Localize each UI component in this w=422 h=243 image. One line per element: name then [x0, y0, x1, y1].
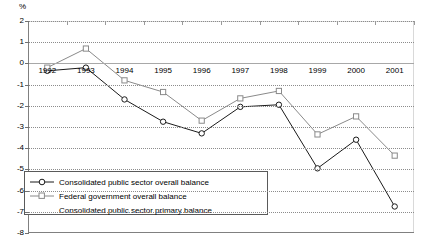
gridline-0 — [28, 63, 414, 64]
x-tick-mark — [67, 21, 68, 25]
y-tick-mark — [25, 63, 29, 64]
gridline-neg5 — [28, 169, 414, 170]
y-tick-label: 1 — [0, 38, 24, 46]
gridline-neg4 — [28, 148, 414, 149]
line-chart: % Consolidated public sector overall bal… — [0, 0, 422, 243]
y-tick-mark — [25, 212, 29, 213]
y-tick-mark — [25, 169, 29, 170]
data-point-marker — [392, 204, 397, 209]
gridline-1 — [28, 42, 414, 43]
x-tick-mark — [260, 21, 261, 25]
data-point-marker — [238, 96, 243, 101]
x-tick-mark — [375, 21, 376, 25]
x-tick-mark — [337, 21, 338, 25]
data-point-marker — [392, 153, 397, 158]
y-tick-label: 0 — [0, 59, 24, 67]
x-tick-mark — [221, 21, 222, 25]
x-tick-label-1995: 1995 — [146, 66, 180, 75]
x-tick-mark — [144, 21, 145, 25]
y-tick-label: -2 — [0, 102, 24, 110]
x-tick-mark — [298, 21, 299, 25]
legend-label: Consolidated public sector primary balan… — [59, 206, 212, 215]
x-tick-mark — [105, 21, 106, 25]
y-tick-label: -3 — [0, 123, 24, 131]
chart-legend: Consolidated public sector overall balan… — [24, 171, 268, 215]
x-tick-label-2000: 2000 — [339, 66, 373, 75]
y-tick-label: -8 — [0, 229, 24, 237]
data-point-marker — [160, 119, 165, 124]
series-line — [47, 49, 394, 156]
y-tick-label: -1 — [0, 81, 24, 89]
y-tick-label: -7 — [0, 208, 24, 216]
gridline-neg2 — [28, 106, 414, 107]
x-tick-label-1998: 1998 — [262, 66, 296, 75]
legend-label: Consolidated public sector overall balan… — [59, 178, 209, 187]
gridline-neg1 — [28, 85, 414, 86]
y-tick-mark — [25, 191, 29, 192]
y-tick-mark — [25, 127, 29, 128]
y-tick-mark — [25, 42, 29, 43]
y-tick-label: -6 — [0, 187, 24, 195]
x-tick-label-1997: 1997 — [223, 66, 257, 75]
data-point-marker — [276, 88, 281, 93]
y-tick-mark — [25, 233, 29, 234]
data-point-marker — [353, 137, 358, 142]
y-tick-mark — [25, 85, 29, 86]
y-tick-label: 2 — [0, 17, 24, 25]
gridline-neg3 — [28, 127, 414, 128]
y-tick-mark — [25, 148, 29, 149]
y-tick-label: -5 — [0, 165, 24, 173]
x-tick-label-2001: 2001 — [378, 66, 412, 75]
data-point-marker — [199, 118, 204, 123]
data-point-marker — [122, 78, 127, 83]
y-tick-mark — [25, 21, 29, 22]
gridline-neg7 — [28, 212, 414, 213]
legend-circle-marker-icon — [25, 175, 59, 189]
y-tick-label: -4 — [0, 144, 24, 152]
y-tick-mark — [25, 106, 29, 107]
x-tick-label-1999: 1999 — [301, 66, 335, 75]
data-point-marker — [315, 132, 320, 137]
data-point-marker — [122, 97, 127, 102]
data-point-marker — [161, 89, 166, 94]
legend-item-1[interactable]: Consolidated public sector overall balan… — [25, 175, 267, 189]
x-tick-label-1996: 1996 — [185, 66, 219, 75]
data-point-marker — [354, 114, 359, 119]
x-tick-label-1994: 1994 — [108, 66, 142, 75]
data-point-marker — [83, 46, 88, 51]
gridline-neg6 — [28, 191, 414, 192]
legend-item-3[interactable]: Consolidated public sector primary balan… — [25, 203, 267, 217]
x-tick-mark — [182, 21, 183, 25]
x-tick-label-1993: 1993 — [69, 66, 103, 75]
data-point-marker — [199, 131, 204, 136]
x-tick-label-1992: 1992 — [30, 66, 64, 75]
legend-label: Federal government overall balance — [59, 192, 187, 201]
x-tick-mark — [414, 21, 415, 25]
